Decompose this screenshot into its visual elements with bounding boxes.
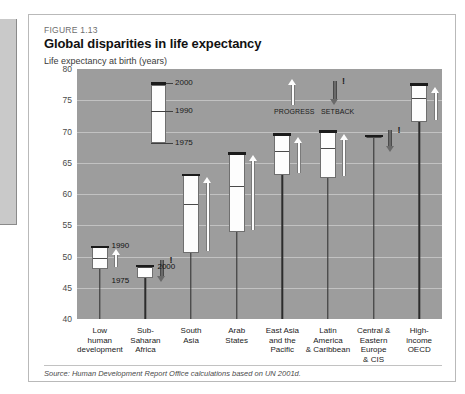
x-axis-label-line: human (77, 336, 123, 346)
page-edge-artifact (0, 19, 17, 225)
annotation-1990: 1990 (111, 241, 129, 250)
legend-tick-2000 (166, 83, 173, 84)
x-axis-label-line: and the (260, 336, 306, 346)
x-axis-label-line: High- (396, 326, 442, 336)
x-axis-label-line: Eastern (351, 336, 397, 346)
bar-stem (99, 269, 100, 319)
plot-area: !! 2000 1990 1975 PROGRESS (77, 69, 442, 319)
bar-stem (418, 122, 419, 319)
y-tick-40: 40 (44, 314, 72, 324)
bar-body[interactable] (92, 247, 108, 269)
bar-body[interactable] (229, 153, 245, 231)
annotation-2000: 2000 (157, 262, 175, 271)
x-axis-label: High-incomeOECD (396, 326, 442, 355)
x-axis-label-line: Arab (214, 326, 260, 336)
x-axis-label-line: & Caribbean (305, 345, 351, 355)
x-axis-label-line: & CIS (351, 355, 397, 365)
x-axis-label-line: Sub-Saharan (123, 326, 169, 345)
x-axis-label: LatinAmerica& Caribbean (305, 326, 351, 355)
y-tick-70: 70 (44, 127, 72, 137)
bar-body[interactable] (411, 85, 427, 123)
figure-card: FIGURE 1.13 Global disparities in life e… (28, 14, 456, 382)
progress-arrow-icon (249, 155, 258, 229)
x-axis-label-line: Pacific (260, 345, 306, 355)
legend-line-1975 (151, 143, 166, 144)
progress-arrow-icon (203, 177, 212, 251)
y-tick-75: 75 (44, 95, 72, 105)
bar-2000-cap (91, 246, 109, 248)
legend-bar-shape (151, 85, 166, 143)
progress-arrow-icon (112, 249, 121, 267)
figure-number: FIGURE 1.13 (44, 25, 98, 35)
setback-arrow-icon (330, 81, 339, 105)
y-tick-60: 60 (44, 189, 72, 199)
legend-tick-1975 (166, 143, 173, 144)
x-axis-label-line: income (396, 336, 442, 346)
annotation-1975: 1975 (111, 276, 129, 285)
bar-body[interactable] (183, 175, 199, 253)
bar-stem (373, 138, 374, 319)
progress-arrow-icon (431, 87, 440, 121)
x-axis-label-line: South (168, 326, 214, 336)
x-axis-label-line: OECD (396, 345, 442, 355)
bar-1990-marker (230, 186, 244, 187)
trend-key: PROGRESS ! SETBACK (282, 77, 392, 147)
progress-key-label: PROGRESS (274, 108, 314, 115)
y-tick-45: 45 (44, 283, 72, 293)
x-axis-label-line: America (305, 336, 351, 346)
y-tick-80: 80 (44, 64, 72, 74)
x-axis-label-line: Latin (305, 326, 351, 336)
bar-stem (145, 278, 146, 319)
bar-stem (282, 175, 283, 319)
legend-label-2000: 2000 (175, 78, 193, 87)
legend-label-1975: 1975 (175, 138, 193, 147)
x-axis-label: Lowhumandevelopment (77, 326, 123, 355)
x-axis-label-line: development (77, 345, 123, 355)
legend-label-1990: 1990 (175, 106, 193, 115)
figure-title: Global disparities in life expectancy (44, 36, 261, 51)
bar-2000-cap (136, 265, 154, 267)
y-tick-50: 50 (44, 252, 72, 262)
legend-line-1990 (151, 111, 166, 112)
bar-1990-marker (275, 151, 289, 152)
x-axis-label: SouthAsia (168, 326, 214, 345)
x-axis-label-line: Europe (351, 345, 397, 355)
bar-1990-marker (321, 148, 335, 149)
x-axis-label: Sub-SaharanAfrica (123, 326, 169, 355)
footer-divider (44, 365, 442, 366)
x-axis-label: Central &EasternEurope& CIS (351, 326, 397, 364)
bar-2000-cap (182, 174, 200, 176)
y-tick-65: 65 (44, 158, 72, 168)
setback-key-label: SETBACK (321, 108, 354, 115)
x-axis-category-labels: LowhumandevelopmentSub-SaharanAfricaSout… (77, 322, 465, 370)
bar-stem (190, 253, 191, 319)
bar-1990-marker (184, 204, 198, 205)
legend-tick-1990 (166, 111, 173, 112)
y-tick-55: 55 (44, 220, 72, 230)
bar-2000-cap (410, 83, 428, 85)
bar-stem (327, 178, 328, 319)
x-axis-label-line: East Asia (260, 326, 306, 336)
setback-bang-icon: ! (342, 78, 345, 85)
bar-group[interactable] (396, 69, 442, 319)
bar-1990-marker (412, 98, 426, 99)
bar-stem (236, 232, 237, 320)
x-axis-label-line: Central & (351, 326, 397, 336)
progress-arrow-icon (288, 79, 297, 105)
chart-plot: 807570656055504540 !! 2000 1990 1975 (44, 69, 442, 319)
x-axis-label-line: Low (77, 326, 123, 336)
x-axis-label: ArabStates (214, 326, 260, 345)
legend-cap-2000 (151, 82, 166, 85)
source-note: Source: Human Development Report Office … (44, 369, 301, 378)
bar-1990-marker (93, 258, 107, 259)
x-axis-label-line: States (214, 336, 260, 346)
chart-legend: 2000 1990 1975 (151, 77, 271, 157)
x-axis-label-line: Africa (123, 345, 169, 355)
page-edge-caption (1, 345, 13, 355)
bar-body[interactable] (137, 266, 153, 279)
x-axis-label-line: Asia (168, 336, 214, 346)
x-axis-label: East Asiaand thePacific (260, 326, 306, 355)
